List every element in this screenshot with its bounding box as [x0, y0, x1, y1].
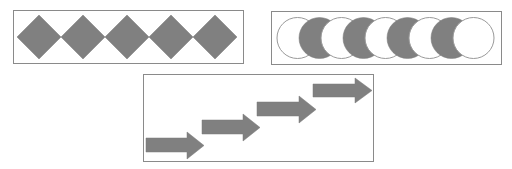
arrow-panel — [144, 75, 374, 162]
white-circle — [453, 18, 494, 59]
diamond-panel — [14, 11, 244, 64]
shape-pattern-diagram — [0, 0, 512, 169]
circle-panel — [272, 12, 502, 65]
